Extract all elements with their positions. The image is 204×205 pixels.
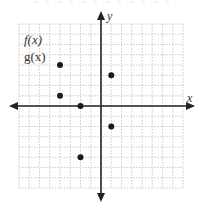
y-axis-down-arrow-icon <box>97 193 105 202</box>
x-axis-left-arrow-icon <box>9 102 18 110</box>
data-point <box>78 103 84 109</box>
x-axis-label: x <box>186 91 193 105</box>
coordinate-plane-figure: x y f(x) g(x) <box>0 0 204 205</box>
data-point <box>108 72 114 78</box>
function-labels: f(x) g(x) <box>24 32 46 64</box>
f-of-x-label: f(x) <box>24 32 42 47</box>
y-axis-up-arrow-icon <box>97 11 105 20</box>
data-point <box>78 154 84 160</box>
g-of-x-label: g(x) <box>24 49 46 64</box>
data-points <box>57 62 114 160</box>
data-point <box>57 62 63 68</box>
data-point <box>57 93 63 99</box>
y-axis-label: y <box>106 9 113 23</box>
data-point <box>108 124 114 130</box>
